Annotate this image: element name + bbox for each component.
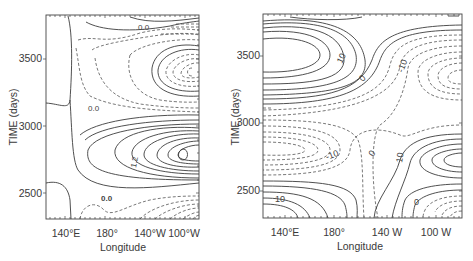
left-xtick-140w: 140°W [134,227,166,239]
left-clabel-pos: 1.2 [129,155,140,168]
left-ytick-2500: 2500 [19,187,43,199]
left-clabel-zero-mid: 0.0 [88,104,100,113]
right-clabel-d: -10 [324,148,340,162]
left-ticks [43,15,199,219]
right-xtick-140e: 140°E [271,226,300,238]
left-xtick-180: 180° [96,227,118,239]
left-xtick-140e: 140°E [52,227,81,239]
right-clabel-h: 0 [414,197,419,207]
left-contours [46,16,199,219]
right-xtick-180: 180° [323,226,345,238]
right-clabel-a: 10 [335,52,348,65]
right-clabel-g: 10 [275,194,285,204]
left-ylabel: TIME (days) [7,88,19,145]
figure: TIME (days) 3500 3000 2500 140°E 180° 14… [0,0,473,261]
left-clabel-zero-top: 0.0 [138,23,150,32]
left-xlabel: Longitude [100,241,146,253]
left-panel: TIME (days) 3500 3000 2500 140°E 180° 14… [7,15,200,253]
right-xtick-100w: 100 W [421,226,451,238]
right-ytick-3500: 3500 [237,49,261,61]
right-contours [263,16,462,218]
right-plot-frame [263,14,462,218]
right-ytick-3000: 3000 [237,116,261,128]
right-clabel-f: 10 [394,152,406,164]
left-clabel-zero-bot: 0.0 [101,194,113,203]
right-xtick-140w: 140 W [372,226,402,238]
left-ytick-3000: 3000 [19,120,43,132]
right-clabel-e: 0 [366,148,377,158]
right-xlabel: Longitude [337,240,383,252]
right-ticks [260,14,462,218]
left-xtick-100w: 100°W [168,227,200,239]
right-ytick-2500: 2500 [237,184,261,196]
left-ytick-3500: 3500 [19,52,43,64]
right-panel: TIME (days) 3500 3000 2500 140°E 180° 14… [229,14,462,252]
